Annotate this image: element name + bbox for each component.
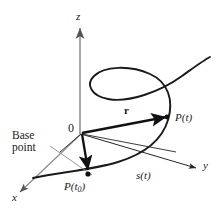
ruling-line-left [60, 134, 81, 152]
ruling-line-mid [82, 134, 176, 152]
axis-z-label: z [76, 11, 80, 23]
point-t0-label-main: P(t [64, 180, 77, 192]
axis-y-label: y [203, 160, 208, 172]
arc-length-label: s(t) [136, 170, 151, 182]
point-t-label: P(t) [175, 112, 192, 124]
point-t0-label: P(t0) [64, 181, 85, 195]
axis-y [81, 134, 196, 168]
origin-label: 0 [68, 122, 74, 135]
base-point-vector [82, 134, 88, 170]
position-vector-r [82, 117, 166, 133]
axis-x-label: x [12, 192, 17, 204]
base-point-annotation: Base point [12, 129, 36, 153]
point-dot-pt [165, 115, 170, 120]
axis-y-line [81, 134, 196, 168]
figure-canvas [0, 0, 221, 214]
point-t0-label-close: ) [81, 180, 85, 192]
base-point-annotation-line1: Base [12, 129, 36, 141]
position-vector-label: r [124, 105, 129, 117]
space-curve-figure: z y x 0 r P(t) P(t0) s(t) Base point [0, 0, 221, 214]
base-point-annotation-line2: point [12, 141, 36, 153]
point-dot-pt0 [85, 171, 90, 176]
